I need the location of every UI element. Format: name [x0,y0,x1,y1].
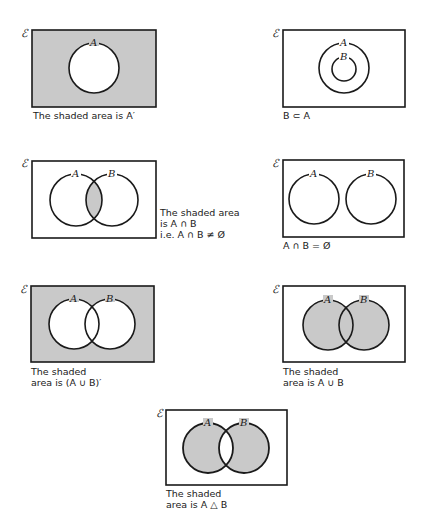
venn-diagrams: ℰ A ℰ A B ℰ A B ℰ A B [0,0,426,514]
universal-set-symbol: ℰ [272,157,280,170]
caption-line: The shaded [166,488,227,499]
caption-line: The shaded area is A′ [33,110,135,121]
caption-line: i.e. A ∩ B ≠ Ø [160,229,240,240]
caption-B-subset-A: B ⊂ A [283,110,310,121]
caption-line: The shaded [31,366,101,377]
caption-intersection: The shaded area is A ∩ B i.e. A ∩ B ≠ Ø [160,207,240,240]
universal-set-symbol: ℰ [272,283,280,296]
set-A-label: A [339,37,347,48]
caption-line: B ⊂ A [283,110,310,121]
universal-set-symbol: ℰ [156,407,164,420]
universal-set-symbol: ℰ [21,157,29,170]
caption-complement-union: The shaded area is (A ∪ B)′ [31,366,101,388]
set-B-label: B [107,168,115,179]
caption-line: is A ∩ B [160,218,240,229]
universal-set-symbol: ℰ [20,283,28,296]
diagram-intersection: ℰ A B [21,157,156,238]
diagram-complement-A: ℰ A [21,27,156,107]
diagram-union: ℰ A B [272,283,405,362]
set-B-label: B [366,168,374,179]
set-A-label: A [203,417,211,428]
set-A-label: A [89,37,97,48]
caption-line: The shaded area [160,207,240,218]
caption-line: The shaded [283,366,344,377]
set-A-label: A [309,168,317,179]
caption-complement-A: The shaded area is A′ [33,110,135,121]
set-B-label: B [339,51,347,62]
diagram-disjoint: ℰ A B [272,157,404,237]
caption-line: A ∩ B = Ø [283,240,331,251]
set-A-circle [69,43,119,93]
caption-line: area is A △ B [166,499,227,510]
set-A-label: A [69,293,77,304]
diagram-B-subset-A: ℰ A B [272,27,405,107]
caption-union: The shaded area is A ∪ B [283,366,344,388]
set-A-label: A [323,294,331,305]
set-A-label: A [71,168,79,179]
universal-set-box [283,160,404,237]
caption-symmetric-difference: The shaded area is A △ B [166,488,227,510]
caption-disjoint: A ∩ B = Ø [283,240,331,251]
universal-set-symbol: ℰ [272,27,280,40]
diagram-complement-union: ℰ A B [20,283,154,362]
caption-line: area is (A ∪ B)′ [31,377,101,388]
set-B-label: B [105,293,113,304]
universal-set-symbol: ℰ [21,27,29,40]
set-B-label: B [359,294,367,305]
diagram-symmetric-difference: ℰ A B [156,407,287,485]
set-B-label: B [239,417,247,428]
caption-line: area is A ∪ B [283,377,344,388]
